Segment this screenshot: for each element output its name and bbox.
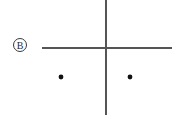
figure-panel-b: B [0, 0, 182, 115]
panel-label-letter: B [17, 40, 24, 51]
canvas-background [0, 0, 182, 115]
diagram-canvas: B [0, 0, 182, 115]
data-point-right [128, 75, 133, 80]
data-point-left [59, 75, 64, 80]
